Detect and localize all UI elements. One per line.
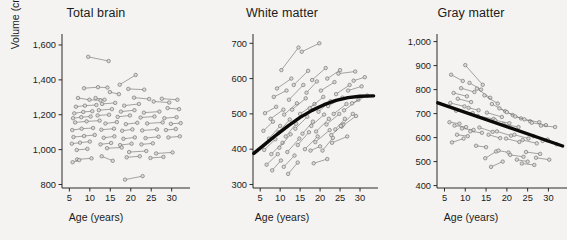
data-point	[133, 136, 137, 140]
x-tick-label: 5	[258, 193, 263, 203]
data-point	[338, 68, 342, 72]
subject-trajectory	[128, 89, 144, 90]
subject-trajectory	[107, 148, 122, 149]
data-point	[342, 109, 346, 113]
data-point	[513, 133, 517, 137]
data-point	[177, 107, 181, 111]
subject-trajectory	[294, 71, 308, 85]
data-point	[285, 89, 289, 93]
data-point	[296, 161, 300, 165]
data-point	[495, 130, 499, 134]
data-point	[171, 151, 175, 155]
data-point	[122, 104, 126, 108]
data-point	[286, 150, 290, 154]
subject-trajectory	[141, 116, 155, 117]
subject-trajectory	[154, 101, 170, 102]
data-point	[133, 108, 137, 112]
data-point	[175, 115, 179, 119]
data-point	[167, 101, 171, 105]
data-series	[70, 55, 182, 181]
data-point	[157, 135, 161, 139]
data-point	[110, 107, 114, 111]
data-point	[91, 110, 95, 114]
data-point	[278, 124, 282, 128]
data-point	[164, 128, 168, 132]
data-point	[455, 133, 459, 137]
data-point	[76, 96, 80, 100]
data-point	[78, 141, 82, 145]
data-point	[132, 96, 136, 100]
data-point	[475, 87, 479, 91]
data-point	[330, 133, 334, 137]
data-point	[91, 126, 95, 130]
data-point	[289, 133, 293, 137]
data-point	[73, 121, 77, 125]
data-point	[508, 153, 512, 157]
data-point	[306, 69, 310, 73]
data-point	[517, 125, 521, 129]
data-point	[280, 68, 284, 72]
data-point	[508, 121, 512, 125]
data-point	[449, 73, 453, 77]
data-point	[274, 105, 278, 109]
data-point	[272, 95, 276, 99]
data-point	[318, 145, 322, 149]
data-point	[108, 90, 112, 94]
data-point	[460, 127, 464, 131]
data-point	[292, 83, 296, 87]
data-point	[154, 152, 158, 156]
data-point	[73, 112, 77, 116]
y-tick-label: 400	[231, 144, 247, 154]
data-point	[96, 114, 100, 118]
y-tick-label: 1,000	[33, 145, 56, 155]
data-point	[469, 130, 473, 134]
data-point	[282, 108, 286, 112]
x-tick-label: 25	[146, 193, 156, 203]
data-point	[275, 87, 279, 91]
data-point	[473, 90, 477, 94]
data-point	[70, 142, 74, 146]
data-point	[307, 130, 311, 134]
data-point	[147, 97, 151, 101]
subject-trajectory	[274, 91, 287, 97]
data-point	[139, 116, 143, 120]
data-point	[97, 108, 101, 112]
data-point	[351, 112, 355, 116]
subject-trajectory	[292, 98, 306, 109]
subject-trajectory	[288, 163, 298, 174]
data-point	[300, 50, 304, 54]
subject-trajectory	[348, 86, 362, 90]
data-point	[109, 141, 113, 145]
data-point	[80, 127, 84, 131]
data-point	[99, 99, 103, 103]
y-tick-label: 900	[415, 61, 431, 71]
data-point	[107, 113, 111, 117]
data-point	[85, 120, 89, 124]
data-point	[290, 77, 294, 81]
data-point	[119, 110, 123, 114]
subject-trajectory	[156, 152, 172, 153]
data-point	[88, 140, 92, 144]
data-point	[95, 103, 99, 107]
data-point	[326, 77, 330, 81]
data-point	[143, 88, 147, 92]
data-point	[491, 130, 495, 134]
data-point	[140, 129, 144, 133]
data-point	[535, 142, 539, 146]
data-point	[309, 149, 313, 153]
data-point	[505, 110, 509, 114]
data-point	[490, 102, 494, 106]
data-point	[75, 148, 79, 152]
subject-trajectory	[461, 88, 474, 92]
data-point	[123, 178, 127, 182]
data-point	[478, 126, 482, 129]
data-point	[346, 89, 350, 93]
data-point	[89, 115, 93, 119]
data-point	[497, 149, 501, 153]
subject-trajectory	[458, 99, 471, 102]
data-point	[498, 136, 502, 140]
data-point	[310, 78, 314, 82]
subject-trajectory	[281, 48, 298, 71]
data-point	[539, 124, 543, 128]
data-point	[122, 137, 126, 141]
